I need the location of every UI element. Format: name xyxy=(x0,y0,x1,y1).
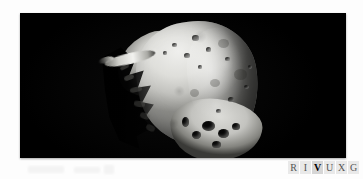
spectrum-cell-visible[interactable]: V xyxy=(312,161,324,174)
spectrum-cell-xray[interactable]: X xyxy=(336,161,348,174)
crater xyxy=(184,53,190,58)
crater xyxy=(216,109,221,113)
crater-shadowed xyxy=(192,131,201,139)
spectrum-cell-radio[interactable]: R xyxy=(288,161,300,174)
crater xyxy=(225,57,230,61)
crater xyxy=(163,51,167,55)
crater xyxy=(228,97,234,102)
spectrum-cell-gamma[interactable]: G xyxy=(348,161,359,174)
spectrum-band: R I V U X G xyxy=(288,161,359,174)
crater xyxy=(218,39,229,48)
spectrum-cell-infrared[interactable]: I xyxy=(300,161,312,174)
shadow-ridge xyxy=(134,100,146,107)
crater xyxy=(206,47,211,52)
figure-root: R I V U X G xyxy=(0,0,363,179)
crater xyxy=(234,69,247,80)
crater-shadowed xyxy=(218,129,229,138)
crater xyxy=(198,65,202,69)
crater xyxy=(244,85,249,89)
asteroid-body xyxy=(20,13,346,158)
crater-shadowed xyxy=(182,117,189,127)
crater xyxy=(210,79,220,87)
spectrum-cell-ultraviolet[interactable]: U xyxy=(324,161,336,174)
crater-shadowed xyxy=(232,123,240,130)
crater xyxy=(192,35,199,41)
crater xyxy=(172,43,177,47)
crater-shadowed xyxy=(202,121,215,131)
astronomy-photo-plate xyxy=(20,13,346,158)
scan-artifact xyxy=(104,165,114,174)
scan-artifact xyxy=(28,166,64,173)
scan-artifact xyxy=(74,167,100,173)
crater xyxy=(248,65,252,69)
crater-shadowed xyxy=(212,141,221,148)
crater xyxy=(190,89,199,97)
